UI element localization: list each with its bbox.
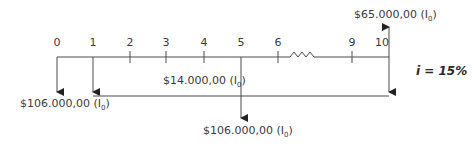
period-label-1: 1 bbox=[90, 36, 97, 49]
period-label-4: 4 bbox=[201, 36, 208, 49]
break-zigzag bbox=[290, 52, 318, 57]
cash-flow-label-period-10: $65.000,00 (I0) bbox=[354, 8, 437, 23]
timeline-axis bbox=[57, 52, 389, 57]
annuity-label: $14.000,00 (I0) bbox=[163, 74, 246, 89]
period-label-6: 6 bbox=[275, 36, 282, 49]
interest-rate-label: i = 15% bbox=[416, 64, 467, 78]
period-label-2: 2 bbox=[127, 36, 134, 49]
cash-flow-label-period-0: $106.000,00 (I0) bbox=[20, 97, 110, 112]
period-label-5: 5 bbox=[238, 36, 245, 49]
period-label-0: 0 bbox=[54, 36, 61, 49]
period-label-3: 3 bbox=[163, 36, 170, 49]
period-label-9: 9 bbox=[349, 36, 356, 49]
cash-flow-label-period-5: $106.000,00 (I0) bbox=[203, 124, 293, 139]
period-label-10: 10 bbox=[375, 36, 389, 49]
